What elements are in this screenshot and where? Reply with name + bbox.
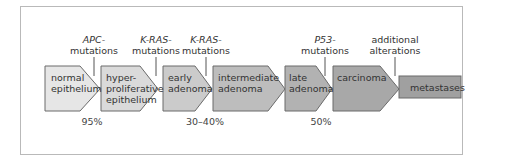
mutation-text: mutations [301, 45, 349, 56]
stage-label-line: hyper- [106, 72, 164, 83]
stage-label-metastases: metastases [410, 82, 465, 93]
stage-label-intermediate-adenoma: intermediate adenoma [218, 72, 279, 94]
stage-label-line: adenoma [168, 83, 213, 94]
mutation-text: additional [370, 34, 421, 45]
stage-label-normal-epithelium: normal epithelium [51, 72, 102, 94]
mutation-label-apc: APC- mutations [70, 34, 118, 56]
mutation-text: mutations [132, 45, 180, 56]
mutation-label-kras-2: K-RAS- mutations [182, 34, 230, 56]
stage-label-line: normal [51, 72, 102, 83]
mutation-text: mutations [70, 45, 118, 56]
stage-label-line: carcinoma [337, 72, 387, 83]
mutation-text: mutations [182, 45, 230, 56]
stage-label-line: adenoma [218, 83, 279, 94]
stage-label-hyperproliferative: hyper- proliferative epithelium [106, 72, 164, 105]
percentage-kras: 30–40% [186, 116, 224, 127]
mutation-gene: P53- [314, 34, 335, 45]
mutation-label-kras-1: K-RAS- mutations [132, 34, 180, 56]
mutation-gene: K-RAS- [140, 34, 171, 45]
stage-label-line: late [289, 72, 334, 83]
mutation-gene: K-RAS- [190, 34, 221, 45]
stage-label-early-adenoma: early adenoma [168, 72, 213, 94]
stage-label-line: epithelium [106, 94, 164, 105]
percentage-p53: 50% [310, 116, 331, 127]
mutation-gene: APC- [83, 34, 105, 45]
stage-label-carcinoma: carcinoma [337, 72, 387, 83]
percentage-apc: 95% [81, 116, 102, 127]
mutation-label-p53: P53- mutations [301, 34, 349, 56]
mutation-text: alterations [370, 45, 421, 56]
stage-label-line: metastases [410, 82, 465, 93]
stage-label-line: adenoma [289, 83, 334, 94]
mutation-label-additional: additional alterations [370, 34, 421, 56]
stage-label-late-adenoma: late adenoma [289, 72, 334, 94]
stage-label-line: early [168, 72, 213, 83]
stage-label-line: proliferative [106, 83, 164, 94]
stage-label-line: epithelium [51, 83, 102, 94]
stage-label-line: intermediate [218, 72, 279, 83]
